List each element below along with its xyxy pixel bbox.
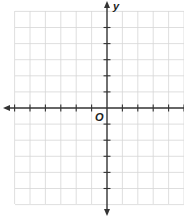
y-axis-up-arrow-icon: [104, 1, 110, 8]
x-axis-left-arrow-icon: [3, 105, 10, 111]
y-axis-label: y: [112, 0, 120, 12]
coordinate-plane: y O: [0, 0, 184, 217]
y-axis-down-arrow-icon: [104, 209, 110, 216]
origin-label: O: [95, 111, 104, 123]
